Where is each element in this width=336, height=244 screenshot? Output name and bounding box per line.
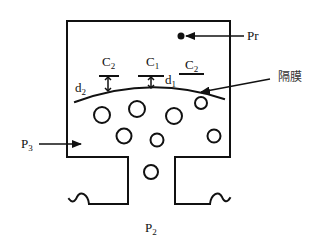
membrane-label: 隔膜 [278, 70, 302, 84]
c1-label: C1 [146, 54, 159, 71]
bubble-circle [166, 108, 182, 124]
p2-label: P2 [145, 220, 157, 237]
bubble-circle [144, 165, 158, 179]
bubble-circle [151, 134, 164, 147]
bubble-circle [208, 130, 221, 143]
housing-outline [67, 21, 230, 204]
bubble-circle [117, 129, 132, 144]
membrane-arrow [201, 79, 270, 92]
p3-label: P3 [21, 136, 33, 153]
pr-label: Pr [247, 28, 259, 43]
d2-label: d2 [75, 80, 86, 97]
right-squiggle [210, 193, 230, 204]
left-squiggle [69, 193, 89, 204]
pressure-sensor-diagram: Pr C2 C1 C2 d1 d2 隔膜 P3 P2 [0, 0, 336, 244]
bubble-circle [195, 97, 207, 109]
c2-left-label: C2 [102, 54, 115, 71]
c2-right-label: C2 [185, 57, 198, 74]
membrane-curve [75, 87, 224, 102]
d1-label: d1 [165, 72, 176, 89]
pr-reference-dot [178, 33, 185, 40]
bubble-circle [129, 101, 145, 117]
fluid-bubbles [94, 97, 221, 179]
bubble-circle [94, 107, 110, 123]
